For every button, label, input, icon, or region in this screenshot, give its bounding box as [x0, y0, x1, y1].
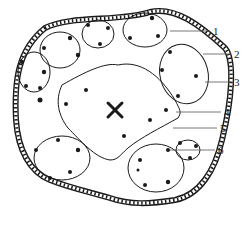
callout-label-4: 4 [224, 107, 230, 118]
outer-wall [16, 11, 232, 203]
callout-label-2: 2 [234, 49, 240, 60]
vesicle-top-left [40, 32, 80, 68]
central-marker [108, 103, 122, 117]
vesicles [18, 13, 215, 192]
callout-label-3: 3 [234, 77, 240, 88]
vesicle-right [153, 39, 215, 109]
central-compartment [58, 64, 180, 160]
vesicle-top-right [123, 13, 167, 47]
callout-label-1: 1 [213, 26, 219, 37]
granules [20, 16, 198, 187]
vesicle-bottom-left [34, 136, 90, 180]
callout-label-5: 5 [220, 123, 226, 134]
callout-label-6: 6 [218, 145, 224, 156]
